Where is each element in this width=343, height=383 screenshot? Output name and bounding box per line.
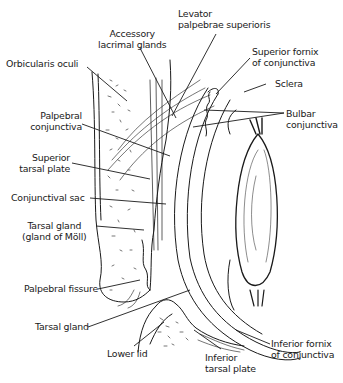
label-line: conjunctiva [14,121,82,132]
label-line: palpebrae superioris [178,19,270,30]
label-line: Levator [178,8,270,19]
label-line: Palpebral [14,110,82,121]
label-line: Sclera [275,78,303,89]
label-line: Tarsal gland [22,220,87,231]
label-levator-palpebrae: Levator palpebrae superioris [178,8,270,30]
label-line: Palpebral fissure [24,283,98,294]
label-line: Superior [6,152,70,163]
label-line: tarsal plate [205,363,256,374]
label-line: Bulbar [286,108,338,119]
label-line: Conjunctival sac [11,192,85,203]
label-tarsal-gland: Tarsal gland [35,321,89,332]
label-accessory-lacrimal-glands: Accessory lacrimal glands [98,28,167,50]
label-bulbar-conjunctiva: Bulbar conjunctiva [286,108,338,130]
label-line: conjunctiva [286,119,338,130]
label-line: Superior fornix [252,46,318,57]
label-line: lacrimal glands [98,39,167,50]
label-sclera: Sclera [275,78,303,89]
label-line: of conjunctiva [252,57,318,68]
label-line: (gland of Möll) [22,231,87,242]
label-lower-lid: Lower lid [107,348,147,359]
label-superior-tarsal-plate: Superior tarsal plate [6,152,70,174]
label-line: Accessory [98,28,167,39]
label-inferior-tarsal-plate: Inferior tarsal plate [205,352,256,374]
label-palpebral-fissure: Palpebral fissure [24,283,98,294]
label-line: Orbicularis oculi [6,58,78,69]
lower-eyelid [138,300,244,352]
label-tarsal-gland-moll: Tarsal gland (gland of Möll) [22,220,87,242]
label-line: tarsal plate [6,163,70,174]
upper-eyelid [92,60,214,302]
label-line: Inferior fornix [271,338,334,349]
globe [175,88,300,360]
label-line: of conjunctiva [271,349,334,360]
label-line: Inferior [205,352,256,363]
label-palpebral-conjunctiva: Palpebral conjunctiva [14,110,82,132]
label-orbicularis-oculi: Orbicularis oculi [6,58,78,69]
orbicularis-stipple [106,80,136,290]
label-superior-fornix: Superior fornix of conjunctiva [252,46,318,68]
label-line: Tarsal gland [35,321,89,332]
label-line: Lower lid [107,348,147,359]
leader-lines [72,34,284,349]
label-inferior-fornix: Inferior fornix of conjunctiva [271,338,334,360]
label-conjunctival-sac: Conjunctival sac [11,192,85,203]
